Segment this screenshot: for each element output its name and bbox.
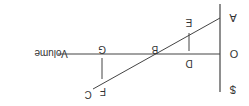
label-b: B bbox=[151, 44, 158, 55]
label-dollar: $ bbox=[230, 84, 236, 96]
label-volume: Volume bbox=[34, 48, 68, 59]
cvp-diagram: A O $ E D B G F C Volume bbox=[0, 0, 249, 106]
label-c: C bbox=[84, 89, 91, 100]
label-e: E bbox=[185, 17, 192, 28]
label-a: A bbox=[229, 12, 237, 24]
label-origin: O bbox=[229, 48, 238, 60]
label-d: D bbox=[185, 58, 192, 69]
label-f: F bbox=[100, 86, 106, 97]
label-g: G bbox=[98, 44, 106, 55]
